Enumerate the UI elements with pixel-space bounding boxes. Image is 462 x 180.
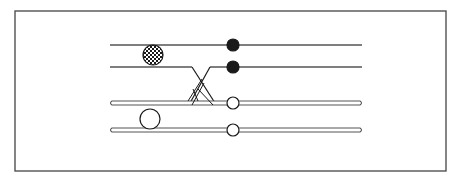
centromere-2 (227, 61, 239, 73)
open-marker (140, 109, 160, 129)
centromere-3 (227, 97, 239, 109)
hatched-marker (143, 45, 163, 65)
centromere-1 (227, 39, 239, 51)
centromere-4 (227, 124, 239, 136)
frame-border (15, 11, 446, 171)
crossover-diagram (0, 0, 462, 180)
chromatid-2-cross-b (190, 67, 210, 103)
chromatid-2-cross (192, 67, 215, 103)
